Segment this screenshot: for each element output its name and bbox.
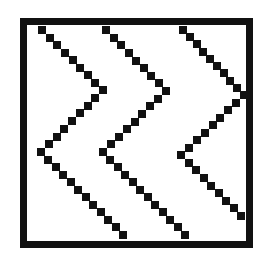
dot	[240, 91, 248, 99]
dot	[147, 72, 155, 80]
dot	[162, 87, 170, 95]
dot	[104, 216, 112, 224]
dot	[216, 114, 224, 122]
dot	[177, 151, 185, 159]
dot	[53, 41, 61, 49]
dot	[209, 121, 217, 129]
dot	[201, 129, 209, 137]
dot	[44, 156, 52, 164]
dot	[144, 193, 152, 201]
dot	[232, 99, 240, 107]
dot	[91, 94, 99, 102]
dot	[115, 133, 123, 141]
dot	[60, 125, 68, 133]
dot	[207, 182, 215, 190]
dot	[106, 156, 114, 164]
dot	[192, 166, 200, 174]
dot	[107, 140, 115, 148]
dot	[193, 40, 201, 48]
dot	[82, 193, 90, 201]
dot	[181, 231, 189, 239]
dot	[119, 231, 127, 239]
dot	[91, 79, 99, 87]
zigzag-figure	[0, 0, 268, 260]
dot	[155, 79, 163, 87]
dot	[69, 56, 77, 64]
dot	[123, 125, 131, 133]
dot	[61, 49, 69, 57]
dot	[222, 197, 230, 205]
dot	[114, 163, 122, 171]
dot	[151, 201, 159, 209]
dot	[132, 57, 140, 65]
dot	[138, 110, 146, 118]
dot	[174, 223, 182, 231]
dot	[99, 148, 107, 156]
dot	[67, 178, 75, 186]
dot	[215, 189, 223, 197]
dot	[102, 26, 110, 34]
dot	[84, 102, 92, 110]
dot	[59, 171, 67, 179]
dot	[84, 71, 92, 79]
dot	[237, 212, 245, 220]
dot	[129, 178, 137, 186]
dot	[200, 174, 208, 182]
dot	[159, 208, 167, 216]
dot	[224, 106, 232, 114]
dot	[146, 102, 154, 110]
dot	[38, 26, 46, 34]
dot	[112, 223, 120, 231]
dot	[45, 140, 53, 148]
dot	[230, 204, 238, 212]
dot	[131, 118, 139, 126]
dot	[97, 208, 105, 216]
dot	[76, 64, 84, 72]
dot	[125, 49, 133, 57]
dot	[37, 148, 45, 156]
dot	[185, 144, 193, 152]
dot	[136, 186, 144, 194]
dot	[76, 109, 84, 117]
dot	[53, 133, 61, 141]
dot	[89, 201, 97, 209]
dot	[99, 86, 107, 94]
dot	[193, 136, 201, 144]
dot	[68, 117, 76, 125]
dot	[74, 186, 82, 194]
dot	[154, 95, 162, 103]
dot	[117, 41, 125, 49]
dot	[166, 216, 174, 224]
dot	[121, 171, 129, 179]
dot	[140, 64, 148, 72]
dot	[220, 69, 228, 77]
dot	[52, 163, 60, 171]
